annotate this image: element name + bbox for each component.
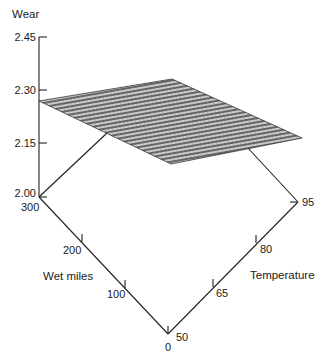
- surface-chart: 2.45 2.30 2.15 2.00 Wear 300 200 100 Wet…: [0, 0, 326, 358]
- y-tick-95: 95: [302, 196, 314, 208]
- x-tick-200: 200: [63, 244, 81, 256]
- temperature-axis: 0 50 65 80 95 Temperature: [165, 196, 315, 353]
- y-tick-65: 65: [216, 287, 228, 299]
- temperature-axis-title: Temperature: [250, 269, 315, 281]
- x-tick-100: 100: [107, 288, 125, 300]
- wet-miles-axis: 300 200 100 Wet miles: [21, 197, 168, 334]
- origin-x-0: 0: [165, 341, 171, 353]
- x-tick-300: 300: [21, 201, 39, 213]
- z-tick-2-30: 2.30: [15, 84, 36, 96]
- surface-support-right: [247, 147, 298, 202]
- wet-miles-axis-title: Wet miles: [43, 270, 94, 282]
- y-tick-80: 80: [260, 243, 272, 255]
- z-tick-2-45: 2.45: [15, 31, 36, 43]
- y-tick-50: 50: [176, 331, 188, 343]
- z-tick-2-15: 2.15: [15, 137, 36, 149]
- z-tick-2-00: 2.00: [15, 187, 36, 199]
- wear-axis-title: Wear: [12, 8, 39, 20]
- wear-axis: 2.45 2.30 2.15 2.00 Wear: [12, 8, 47, 199]
- surface-support-left: [39, 133, 107, 197]
- wear-surface-plane: [39, 79, 302, 164]
